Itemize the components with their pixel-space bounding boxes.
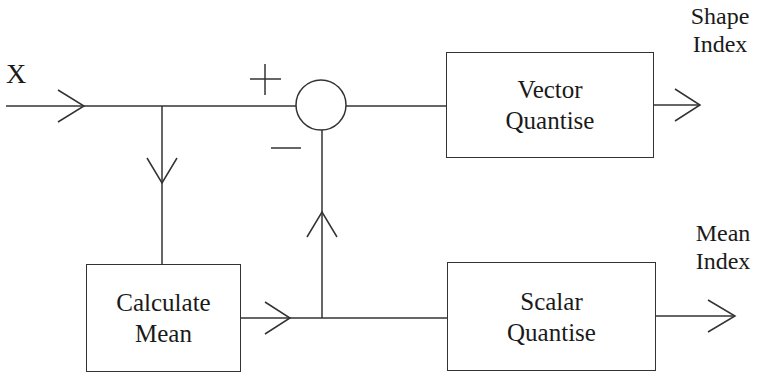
vector-quantise-line1: Vector: [517, 74, 582, 105]
mean-index-line2: Index: [683, 247, 763, 275]
calculate-mean-line2: Mean: [135, 318, 192, 349]
scalar-quantise-line1: Scalar: [520, 286, 582, 317]
mean-index-label: Mean Index: [683, 219, 763, 275]
vector-quantise-line2: Quantise: [506, 105, 595, 136]
shape-index-line1: Shape: [680, 2, 760, 30]
vector-quantise-block: Vector Quantise: [446, 52, 654, 158]
summing-junction: [296, 80, 346, 130]
mean-index-line1: Mean: [683, 219, 763, 247]
scalar-quantise-line2: Quantise: [507, 317, 596, 348]
shape-index-line2: Index: [680, 30, 760, 58]
shape-index-label: Shape Index: [680, 2, 760, 58]
calculate-mean-block: Calculate Mean: [86, 264, 241, 372]
calculate-mean-line1: Calculate: [116, 287, 210, 318]
input-label: X: [6, 60, 26, 88]
scalar-quantise-block: Scalar Quantise: [447, 262, 656, 371]
